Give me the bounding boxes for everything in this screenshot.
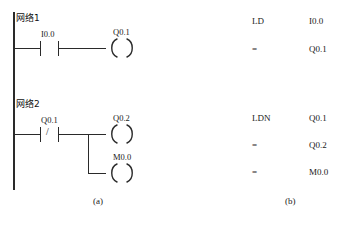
figure-caption-a: (a) bbox=[93, 196, 103, 207]
power-rail-left bbox=[13, 12, 15, 190]
rung-wire-rail-to-contact-2 bbox=[13, 134, 40, 135]
plc-ladder-figure: 网络1I0.0Q0.1网络2/Q0.1Q0.2M0.0 LDI0.0=Q0.1L… bbox=[0, 0, 347, 227]
branch-vertical-2 bbox=[88, 134, 89, 174]
contact-bar-left-2 bbox=[40, 127, 41, 142]
coil-label-Q0-2: Q0.2 bbox=[113, 113, 130, 123]
contact-label-Q0-1: Q0.1 bbox=[41, 115, 58, 125]
stl-opcode: = bbox=[252, 44, 257, 55]
coil-Q0-2 bbox=[106, 124, 138, 144]
network-label-1: 网络1 bbox=[16, 13, 40, 24]
rung-wire-contact-to-coil-2 bbox=[58, 134, 88, 135]
stl-opcode: LD bbox=[252, 16, 264, 27]
contact-slash-2: / bbox=[46, 127, 49, 137]
network-label-2: 网络2 bbox=[16, 99, 40, 110]
stl-opcode: = bbox=[252, 140, 257, 151]
stl-operand: I0.0 bbox=[309, 16, 323, 27]
stl-operand: M0.0 bbox=[309, 167, 328, 178]
coil-label-M0-0: M0.0 bbox=[113, 152, 131, 162]
figure-caption-b: (b) bbox=[285, 196, 296, 207]
stl-operand: Q0.1 bbox=[309, 113, 327, 124]
contact-label-I0-0: I0.0 bbox=[41, 29, 54, 39]
rung-wire-rail-to-contact-1 bbox=[13, 48, 40, 49]
stl-operand: Q0.1 bbox=[309, 44, 327, 55]
stl-opcode: LDN bbox=[252, 113, 271, 124]
stl-opcode: = bbox=[252, 167, 257, 178]
stl-operand: Q0.2 bbox=[309, 140, 327, 151]
coil-M0-0 bbox=[106, 163, 138, 183]
coil-label-Q0-1: Q0.1 bbox=[113, 27, 130, 37]
coil-feed-wire-Q0-2 bbox=[88, 134, 106, 135]
coil-feed-wire-Q0-1 bbox=[58, 48, 106, 49]
coil-Q0-1 bbox=[106, 38, 138, 58]
contact-bar-left-1 bbox=[40, 41, 41, 56]
coil-feed-wire-M0-0 bbox=[88, 173, 106, 174]
